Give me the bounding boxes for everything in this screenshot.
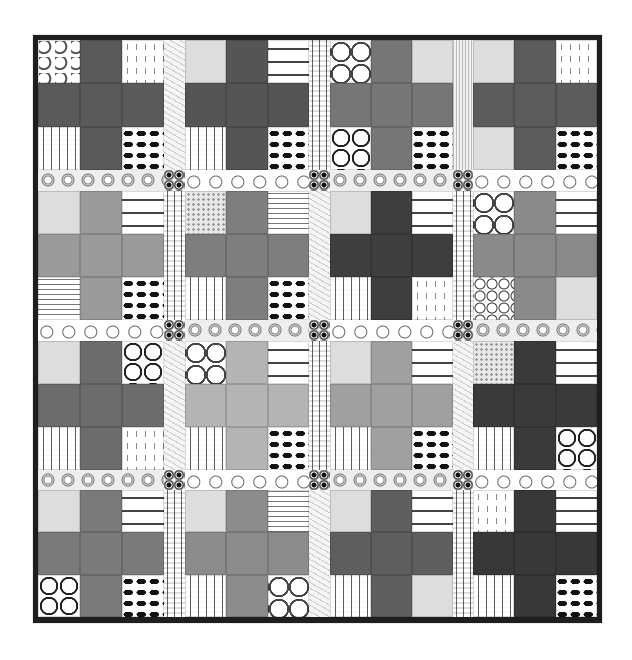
- corner-patch: [185, 341, 226, 384]
- cross-patch: [473, 384, 514, 427]
- quilt-block: [38, 191, 164, 320]
- cross-patch: [371, 83, 412, 126]
- quilt-block: [330, 40, 453, 170]
- quilt-block: [330, 191, 453, 320]
- cross-patch: [80, 384, 122, 427]
- corner-patch: [268, 191, 309, 234]
- cross-patch: [514, 191, 555, 234]
- horizontal-sashing: [330, 170, 453, 191]
- corner-patch: [412, 127, 453, 170]
- cross-patch: [226, 490, 267, 532]
- cross-patch: [330, 83, 371, 126]
- corner-patch: [556, 40, 597, 83]
- sashing-cornerstone: [309, 470, 330, 490]
- cross-patch: [80, 575, 122, 617]
- corner-patch: [412, 277, 453, 320]
- corner-patch: [330, 341, 371, 384]
- cross-patch: [122, 532, 164, 574]
- quilt-grid: [38, 40, 597, 617]
- corner-patch: [268, 277, 309, 320]
- cross-patch: [185, 83, 226, 126]
- cross-patch: [185, 532, 226, 574]
- corner-patch: [556, 575, 597, 617]
- vertical-sashing: [164, 490, 185, 617]
- corner-patch: [412, 427, 453, 470]
- corner-patch: [473, 191, 514, 234]
- cross-patch: [412, 384, 453, 427]
- cross-patch: [514, 40, 555, 83]
- corner-patch: [330, 127, 371, 170]
- vertical-sashing: [453, 191, 473, 320]
- horizontal-sashing: [473, 470, 597, 490]
- quilt-block: [38, 341, 164, 470]
- cross-patch: [122, 384, 164, 427]
- corner-patch: [38, 127, 80, 170]
- cross-patch: [473, 83, 514, 126]
- cross-patch: [556, 384, 597, 427]
- corner-patch: [412, 40, 453, 83]
- cross-patch: [122, 83, 164, 126]
- cross-patch: [80, 341, 122, 384]
- cross-patch: [556, 234, 597, 277]
- cross-patch: [412, 532, 453, 574]
- cross-patch: [514, 384, 555, 427]
- corner-patch: [122, 490, 164, 532]
- corner-patch: [556, 427, 597, 470]
- corner-patch: [330, 277, 371, 320]
- quilt-block: [330, 490, 453, 617]
- cross-patch: [371, 341, 412, 384]
- vertical-sashing: [309, 40, 330, 170]
- cross-patch: [514, 490, 555, 532]
- sashing-cornerstone: [309, 320, 330, 341]
- quilt-block: [185, 40, 309, 170]
- horizontal-sashing: [38, 170, 164, 191]
- vertical-sashing: [453, 490, 473, 617]
- quilt-block: [38, 490, 164, 617]
- corner-patch: [122, 341, 164, 384]
- cross-patch: [514, 341, 555, 384]
- corner-patch: [473, 575, 514, 617]
- quilt-block: [38, 40, 164, 170]
- horizontal-sashing: [185, 470, 309, 490]
- cross-patch: [514, 277, 555, 320]
- corner-patch: [122, 427, 164, 470]
- horizontal-sashing: [38, 470, 164, 490]
- sashing-cornerstone: [453, 170, 473, 191]
- corner-patch: [122, 40, 164, 83]
- cross-patch: [371, 277, 412, 320]
- cross-patch: [80, 127, 122, 170]
- sashing-cornerstone: [164, 470, 185, 490]
- corner-patch: [412, 490, 453, 532]
- cross-patch: [371, 490, 412, 532]
- vertical-sashing: [453, 341, 473, 470]
- cross-patch: [514, 127, 555, 170]
- cross-patch: [226, 40, 267, 83]
- corner-patch: [122, 127, 164, 170]
- horizontal-sashing: [38, 320, 164, 341]
- corner-patch: [473, 341, 514, 384]
- cross-patch: [412, 83, 453, 126]
- cross-patch: [330, 532, 371, 574]
- vertical-sashing: [164, 40, 185, 170]
- cross-patch: [226, 384, 267, 427]
- cross-patch: [371, 234, 412, 277]
- horizontal-sashing: [330, 470, 453, 490]
- quilt-block: [185, 490, 309, 617]
- cross-patch: [80, 277, 122, 320]
- horizontal-sashing: [330, 320, 453, 341]
- cross-patch: [185, 234, 226, 277]
- corner-patch: [556, 341, 597, 384]
- horizontal-sashing: [185, 320, 309, 341]
- cross-patch: [371, 575, 412, 617]
- vertical-sashing: [164, 191, 185, 320]
- cross-patch: [38, 384, 80, 427]
- cross-patch: [226, 277, 267, 320]
- corner-patch: [268, 490, 309, 532]
- corner-patch: [185, 277, 226, 320]
- corner-patch: [473, 490, 514, 532]
- cross-patch: [514, 575, 555, 617]
- corner-patch: [556, 127, 597, 170]
- cross-patch: [80, 40, 122, 83]
- corner-patch: [38, 427, 80, 470]
- corner-patch: [185, 490, 226, 532]
